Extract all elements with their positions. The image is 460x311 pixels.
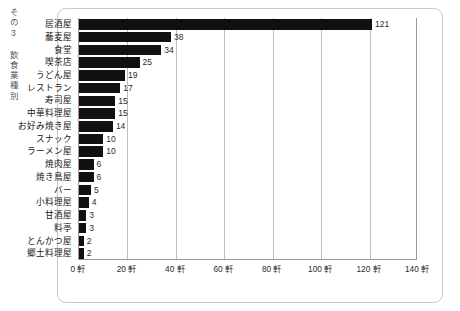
bar <box>79 96 115 107</box>
category-label: 郷土料理屋 <box>27 248 72 259</box>
bar-row: 38 <box>79 32 183 43</box>
bar-value-label: 15 <box>118 97 127 106</box>
bar <box>79 70 125 81</box>
x-tick-label: 40 軒 <box>165 262 185 274</box>
bar <box>79 146 103 157</box>
bar-row: 10 <box>79 146 116 157</box>
chart-figure: その3 飲食業種別 居酒屋蕎麦屋食堂喫茶店うどん屋レストラン寿司屋中華料理屋お好… <box>0 0 460 311</box>
bar-value-label: 3 <box>89 224 94 233</box>
x-tick-label: 100 軒 <box>308 262 332 274</box>
bar-value-label: 10 <box>106 147 115 156</box>
bar-row: 10 <box>79 134 116 145</box>
bar-value-label: 10 <box>106 135 115 144</box>
bar <box>79 236 84 247</box>
category-label: うどん屋 <box>36 70 72 81</box>
category-label: バー <box>54 185 72 196</box>
bar-value-label: 14 <box>116 122 125 131</box>
category-label: レストラン <box>27 83 72 94</box>
bar-row: 19 <box>79 70 137 81</box>
bar-value-label: 2 <box>87 237 92 246</box>
x-tick-label: 0 軒 <box>71 262 86 274</box>
bar-row: 15 <box>79 108 128 119</box>
bar-value-label: 25 <box>143 58 152 67</box>
bar <box>79 134 103 145</box>
bar-value-label: 38 <box>174 33 183 42</box>
category-label: ラーメン屋 <box>27 146 72 157</box>
x-tick-label: 120 軒 <box>356 262 380 274</box>
bar-row: 2 <box>79 248 92 259</box>
bar-row: 4 <box>79 197 96 208</box>
category-label: 焼肉屋 <box>45 159 72 170</box>
bar-row: 6 <box>79 159 101 170</box>
bar-value-label: 34 <box>164 46 173 55</box>
bar <box>79 121 113 132</box>
x-tick-label: 80 軒 <box>262 262 282 274</box>
plot-area: 1213834251917151514101066543322 <box>78 18 417 260</box>
category-axis-labels: 居酒屋蕎麦屋食堂喫茶店うどん屋レストラン寿司屋中華料理屋お好み焼き屋スナックラー… <box>0 18 75 260</box>
bar-value-label: 6 <box>97 173 102 182</box>
category-label: 小料理屋 <box>36 197 72 208</box>
bar <box>79 57 140 68</box>
bar-row: 121 <box>79 19 389 30</box>
bar-value-label: 17 <box>123 84 132 93</box>
bar-rows: 1213834251917151514101066543322 <box>79 18 416 259</box>
bar-value-label: 4 <box>92 198 97 207</box>
bar <box>79 32 171 43</box>
category-label: スナック <box>36 134 72 145</box>
bar-row: 25 <box>79 57 152 68</box>
bar-row: 17 <box>79 83 133 94</box>
bar <box>79 159 94 170</box>
bar-row: 6 <box>79 172 101 183</box>
bar-value-label: 6 <box>97 160 102 169</box>
x-tick-label: 140 軒 <box>405 262 429 274</box>
bar <box>79 108 115 119</box>
category-label: 食堂 <box>54 45 72 56</box>
bar-row: 3 <box>79 223 94 234</box>
category-label: とんかつ屋 <box>27 236 72 247</box>
bar-value-label: 3 <box>89 211 94 220</box>
bar-row: 2 <box>79 236 92 247</box>
category-label: お好み焼き屋 <box>18 121 72 132</box>
category-label: 甘酒屋 <box>45 210 72 221</box>
bar <box>79 197 89 208</box>
bar <box>79 185 91 196</box>
bar <box>79 172 94 183</box>
bar <box>79 19 372 30</box>
bar-value-label: 2 <box>87 249 92 258</box>
x-tick-label: 20 軒 <box>117 262 137 274</box>
bar-value-label: 15 <box>118 109 127 118</box>
category-label: 焼き鳥屋 <box>36 172 72 183</box>
category-label: 喫茶店 <box>45 57 72 68</box>
bar-row: 15 <box>79 96 128 107</box>
bar-value-label: 5 <box>94 186 99 195</box>
category-label: 居酒屋 <box>45 19 72 30</box>
category-label: 中華料理屋 <box>27 108 72 119</box>
bar-row: 5 <box>79 185 99 196</box>
bar <box>79 45 161 56</box>
bar-value-label: 19 <box>128 71 137 80</box>
bar <box>79 223 86 234</box>
bar-row: 3 <box>79 210 94 221</box>
bar <box>79 83 120 94</box>
bar-row: 34 <box>79 45 174 56</box>
x-axis-tick-labels: 0 軒20 軒40 軒60 軒80 軒100 軒120 軒140 軒 <box>78 262 417 278</box>
category-label: 料亭 <box>54 223 72 234</box>
category-label: 寿司屋 <box>45 96 72 107</box>
bar-value-label: 121 <box>375 20 389 29</box>
bar <box>79 210 86 221</box>
bar <box>79 248 84 259</box>
bar-row: 14 <box>79 121 125 132</box>
category-label: 蕎麦屋 <box>45 32 72 43</box>
x-tick-label: 60 軒 <box>214 262 234 274</box>
